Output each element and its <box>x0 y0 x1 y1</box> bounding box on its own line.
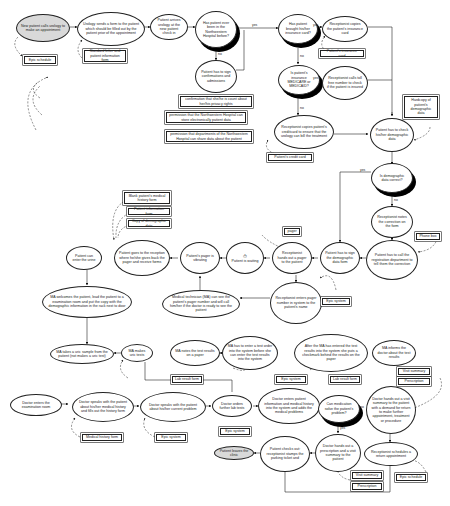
edge-label-no-ins: no <box>300 54 304 58</box>
node-ma-welcomes: MA welcomes the patient, lead the patien… <box>42 286 132 318</box>
node-doctor-visit-summary: Doctor hands out a visit summary to the … <box>366 386 416 434</box>
edge-label-no-medicare: no <box>300 106 304 110</box>
node-ma-informs-doctor: MA informs the doctor about the test res… <box>372 340 416 366</box>
doc-epic-system-2: Epic system <box>276 376 306 383</box>
doc-epic-system-1: Epic system <box>322 298 350 305</box>
doc-patient-info-form: Patient information form <box>128 208 170 215</box>
doc-epic-system-3: Epic system <box>156 434 186 441</box>
node-medical-technician: Medical technician (MA) can see the pati… <box>162 290 240 318</box>
doc-standard-letter: Standard letter and patient information … <box>84 50 126 62</box>
doc-medical-history-form: Medical history form <box>82 434 122 441</box>
doc-lab-result-form-2: Lab result form <box>330 376 360 383</box>
node-enters-pager-number: Receptionist enters pager number in syst… <box>270 282 322 324</box>
doc-insurance-card: Patient's insurance card <box>320 50 364 57</box>
edge-label-yes-correct: yes <box>360 168 365 172</box>
doc-epic-schedule-2: Epic schedule <box>396 474 426 481</box>
node-patient-waiting-label: Patient is waiting <box>232 259 259 263</box>
node-patient-goes-reception: Patient goes to the reception where he/s… <box>114 240 170 276</box>
edge-label-no-correct: no <box>394 198 398 202</box>
node-doctor-orders-lab: Doctor orders further lab tests <box>212 395 252 417</box>
node-patient-arrives: Patient arrives urology at the new patie… <box>150 14 188 40</box>
node-ma-makes-tests: MA makes uric tests <box>121 344 153 362</box>
edge-label-yes-medicare: yes <box>313 76 318 80</box>
node-doctor-enters-info: Doctor enters patient information and me… <box>258 388 320 424</box>
node-receptionist-notes-correction: Receptionist notes the correction on the… <box>371 206 413 238</box>
node-ma-checkmark: After the MA has entered the test result… <box>294 334 368 372</box>
edge-label-no-medication: no <box>360 405 364 409</box>
edge-label-yes-medication: yes <box>340 426 345 430</box>
decision-medication: Can medication solve the patient's probl… <box>318 395 360 423</box>
node-call-registration: Patient has to call the registration dep… <box>366 240 418 280</box>
node-patient-leaves: Patient leaves the clinic <box>214 446 254 460</box>
node-sign-confirmations: Patient has to sign confirmations and ad… <box>195 60 237 93</box>
doc-permission-share-data: permission that departments of the North… <box>166 131 252 142</box>
doc-pager: pager <box>284 228 300 235</box>
node-new-patient-calls: New patient calls urology to make an app… <box>16 14 70 42</box>
node-doctor-enters-room: Doctor enters the examination room <box>10 394 62 416</box>
doc-epic-schedule: Epic schedule <box>24 56 56 64</box>
decision-data-correct: Is demographic data correct? <box>371 163 413 193</box>
edge-label-yes-been: yes <box>252 23 257 27</box>
doc-blank-history-form: Blank patient's medical history form <box>124 192 170 204</box>
edge-label-no-been: no <box>218 52 222 56</box>
node-doctor-current-problem: Doctor speaks with the patient about his… <box>140 392 206 422</box>
node-urology-sends-form: Urology sends a form to the patient whic… <box>77 12 145 46</box>
node-copy-credit-card: Receptionist copies patient's creditcard… <box>274 115 334 149</box>
doc-copy-demographic: Copy of demographic data <box>128 220 170 227</box>
process-flowchart: New patient calls urology to make an app… <box>0 0 450 506</box>
edge-label-yes-ins: yes <box>313 23 318 27</box>
node-ma-uric-sample: MA takes a uric sample from the patient … <box>50 344 114 364</box>
doc-prescription-1: Prescription <box>398 378 430 385</box>
doc-visit-summary-1: Visit summary <box>398 368 430 375</box>
node-ma-notes-results: MA notes the test results on a paper <box>170 340 220 366</box>
doc-visit-summary-2: Visit summary <box>352 472 382 479</box>
doc-permission-store-data: permission that the Northwestern Hospita… <box>166 112 246 123</box>
doc-credit-card: Patient's credit card <box>268 154 312 161</box>
node-patient-waiting: ⏱ Patient is waiting <box>226 242 264 274</box>
node-call-toll-free: Receptionist calls toll free number to c… <box>322 66 368 100</box>
node-patient-checks-out: Patient checks out: receptionist stamps … <box>260 436 310 472</box>
node-patient-can-enter-urine: Patient can enter the urine <box>66 246 102 270</box>
node-doctor-prescription: Doctor hands out a prescription and a vi… <box>315 434 361 472</box>
doc-prescription-2: Prescription <box>352 483 382 490</box>
node-hands-out-pager: Receptionist hands out a pager to the pa… <box>272 242 312 274</box>
doc-epic-system-4: Epic system <box>220 428 250 435</box>
node-copy-insurance-card: Receptionist copies the patient's insura… <box>322 16 368 42</box>
doc-hardcopy-demographic: Hardcopy of patient's demographic data <box>404 96 438 118</box>
node-doctor-medical-history: Doctor speaks with the patient about his… <box>72 392 134 422</box>
decision-medicare-medicaid: Is patient's insurance MEDICARE or MEDIC… <box>278 65 320 95</box>
doc-phone-box: Phone box <box>416 233 440 240</box>
node-sign-demographic-form: Patient has to sign the demographic data… <box>320 242 360 274</box>
node-check-demographic-data: Patient has to check his/her demographic… <box>370 118 414 152</box>
doc-privacy-confirmation: confirmation that she/he is count about … <box>180 96 252 107</box>
doc-lab-result-form-1: Lab result form <box>172 376 202 383</box>
node-schedule-return: Receptionist schedules a return appointm… <box>364 442 418 466</box>
node-pager-vibrating: Patient's pager is vibrating <box>180 242 220 274</box>
decision-been-before: Has patient ever been in the Northwester… <box>195 11 237 48</box>
node-ma-enter-test-order: MA has to enter a test order into the sy… <box>222 336 278 370</box>
decision-insurance-card: Has patient brought his/her insurance ca… <box>278 14 318 44</box>
